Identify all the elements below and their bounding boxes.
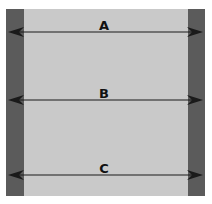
label-b: B bbox=[94, 87, 114, 100]
label-a: A bbox=[94, 19, 114, 32]
label-c: C bbox=[94, 162, 114, 175]
